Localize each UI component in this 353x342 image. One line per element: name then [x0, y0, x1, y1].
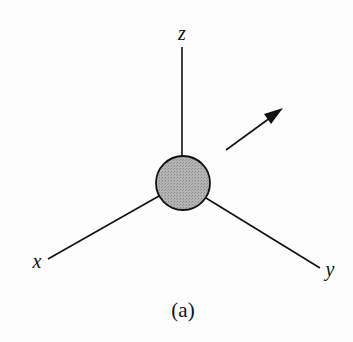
- y-axis-line: [206, 198, 320, 268]
- axes-diagram: z x y (a): [0, 0, 353, 342]
- diagram-canvas: z x y (a): [0, 0, 353, 342]
- direction-arrow-icon: [226, 108, 283, 150]
- z-axis-label: z: [177, 22, 186, 44]
- figure-caption: (a): [171, 298, 194, 322]
- x-axis-label: x: [32, 250, 42, 272]
- x-axis-line: [48, 196, 159, 259]
- y-axis-label: y: [324, 258, 335, 281]
- sphere: [156, 156, 210, 210]
